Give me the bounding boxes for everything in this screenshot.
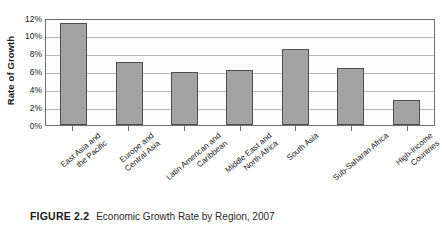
x-axis-label: High-IncomeCountries: [394, 131, 441, 175]
y-tick-label: 8%: [18, 50, 42, 58]
figure-caption-text: Economic Growth Rate by Region, 2007: [96, 211, 274, 222]
bar-slot: [323, 20, 378, 125]
bar-slot: [101, 20, 156, 125]
bar[interactable]: [116, 62, 143, 124]
y-tick-label: 6%: [18, 68, 42, 76]
figure-container: Rate of Growth 12%10%8%6%4%2%0% East Asi…: [0, 0, 442, 226]
bar[interactable]: [393, 100, 420, 124]
plot-area: [45, 19, 435, 126]
bar[interactable]: [60, 23, 87, 125]
x-label-slot: Middle East andNorth Africa: [212, 130, 268, 202]
x-label-slot: High-IncomeCountries: [379, 130, 435, 202]
bar-slot: [157, 20, 212, 125]
y-axis-title: Rate of Growth: [4, 18, 18, 122]
bar-slot: [268, 20, 323, 125]
x-axis-label: Europe andCentral Asia: [116, 131, 161, 173]
bar[interactable]: [282, 49, 309, 125]
figure-number: FIGURE 2.2: [30, 210, 89, 222]
y-tick-label: 12%: [18, 15, 42, 23]
bar-slot: [212, 20, 267, 125]
figure-caption: FIGURE 2.2Economic Growth Rate by Region…: [30, 210, 430, 226]
bar-chart: Rate of Growth 12%10%8%6%4%2%0% East Asi…: [0, 0, 442, 204]
x-label-slot: East Asia andthe Pacific: [45, 130, 101, 202]
x-axis-label-line1: South Asia: [285, 131, 320, 162]
bar[interactable]: [171, 72, 198, 125]
x-label-slot: South Asia: [268, 130, 324, 202]
y-tick-label: 0%: [18, 122, 42, 130]
bar-slot: [46, 20, 101, 125]
y-tick-label: 10%: [18, 32, 42, 40]
y-tick-label: 4%: [18, 86, 42, 94]
bars-layer: [46, 20, 434, 125]
y-axis-tick-labels: 12%10%8%6%4%2%0%: [18, 13, 42, 131]
bar[interactable]: [226, 70, 253, 124]
x-label-slot: Europe andCentral Asia: [101, 130, 157, 202]
bar-slot: [379, 20, 434, 125]
x-axis-label: South Asia: [285, 131, 320, 163]
bar[interactable]: [337, 68, 364, 124]
y-axis-title-label: Rate of Growth: [6, 35, 17, 104]
x-axis-category-labels: East Asia andthe PacificEurope andCentra…: [45, 130, 435, 202]
x-label-slot: Latin American andCaribbean: [156, 130, 212, 202]
x-label-slot: Sub-Saharan Africa: [324, 130, 380, 202]
y-tick-label: 2%: [18, 104, 42, 112]
